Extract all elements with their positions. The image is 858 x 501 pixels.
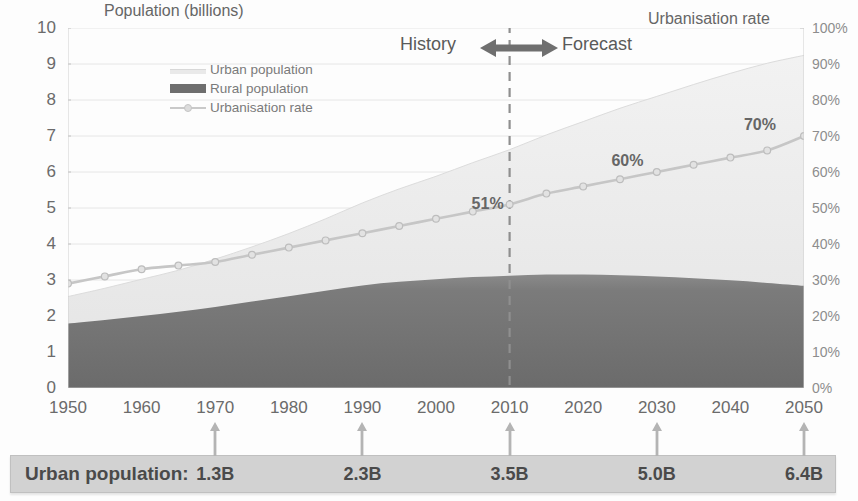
right-axis-tick-10pct: 10% <box>812 344 840 360</box>
urban-area-swatch-icon <box>170 69 206 74</box>
left-axis-tick-6: 6 <box>26 162 56 182</box>
left-axis-tick-1: 1 <box>26 342 56 362</box>
forecast-label: Forecast <box>562 34 632 55</box>
right-axis-tick-80pct: 80% <box>812 92 840 108</box>
left-axis-tick-4: 4 <box>26 234 56 254</box>
legend-label: Urban population <box>210 62 313 77</box>
x-axis-tick-2030: 2030 <box>638 398 676 418</box>
left-axis-tick-5: 5 <box>26 198 56 218</box>
left-axis-tick-10: 10 <box>26 18 56 38</box>
legend-item-urban-population: Urban population <box>170 60 313 79</box>
x-axis-tick-1970: 1970 <box>196 398 234 418</box>
legend-item-urbanisation-rate: Urbanisation rate <box>170 98 313 117</box>
right-axis-tick-100pct: 100% <box>812 20 848 36</box>
history-forecast-arrow-icon <box>478 36 560 60</box>
rural-area-swatch-icon <box>170 84 206 93</box>
x-axis-tick-2010: 2010 <box>491 398 529 418</box>
right-axis-tick-50pct: 50% <box>812 200 840 216</box>
urban-population-bar: Urban population: <box>10 455 836 493</box>
x-axis-tick-1950: 1950 <box>49 398 87 418</box>
chart-root: Population (billions) Urbanisation rate … <box>0 0 858 501</box>
right-axis-tick-60pct: 60% <box>812 164 840 180</box>
history-label: History <box>400 34 456 55</box>
rate-line-swatch-icon <box>170 103 206 112</box>
urban-population-arrow-2050 <box>798 422 810 456</box>
right-axis-tick-30pct: 30% <box>812 272 840 288</box>
urban-population-value-2050: 6.4B <box>785 464 823 485</box>
right-axis-tick-70pct: 70% <box>812 128 840 144</box>
right-axis-tick-90pct: 90% <box>812 56 840 72</box>
rate-callout-51pct: 51% <box>472 195 504 213</box>
x-axis-tick-1960: 1960 <box>123 398 161 418</box>
urban-population-arrow-2030 <box>651 422 663 456</box>
urban-population-arrow-1990 <box>356 422 368 456</box>
left-axis-tick-2: 2 <box>26 306 56 326</box>
urban-population-arrow-2010 <box>504 422 516 456</box>
x-axis-tick-2020: 2020 <box>564 398 602 418</box>
urban-population-bar-label: Urban population: <box>25 463 189 485</box>
urban-population-value-1970: 1.3B <box>196 464 234 485</box>
left-axis-tick-0: 0 <box>26 378 56 398</box>
urban-population-arrow-1970 <box>209 422 221 456</box>
right-axis-tick-0pct: 0% <box>812 380 832 396</box>
rate-callout-60pct: 60% <box>611 152 643 170</box>
left-axis-tick-9: 9 <box>26 54 56 74</box>
urban-population-value-1990: 2.3B <box>343 464 381 485</box>
x-axis-tick-2040: 2040 <box>711 398 749 418</box>
rate-callout-70pct: 70% <box>744 116 776 134</box>
x-axis-tick-2050: 2050 <box>785 398 823 418</box>
legend-label: Rural population <box>210 81 308 96</box>
left-axis-tick-8: 8 <box>26 90 56 110</box>
x-axis-tick-1980: 1980 <box>270 398 308 418</box>
legend-item-rural-population: Rural population <box>170 79 313 98</box>
chart-legend: Urban population Rural population Urbani… <box>170 60 313 117</box>
left-axis-tick-7: 7 <box>26 126 56 146</box>
left-axis-tick-3: 3 <box>26 270 56 290</box>
right-axis-tick-40pct: 40% <box>812 236 840 252</box>
urban-population-value-2010: 3.5B <box>491 464 529 485</box>
x-axis-tick-2000: 2000 <box>417 398 455 418</box>
urban-population-value-2030: 5.0B <box>638 464 676 485</box>
legend-label: Urbanisation rate <box>210 100 313 115</box>
left-axis-title: Population (billions) <box>104 2 244 20</box>
right-axis-title: Urbanisation rate <box>648 10 770 28</box>
x-axis-tick-1990: 1990 <box>343 398 381 418</box>
right-axis-tick-20pct: 20% <box>812 308 840 324</box>
